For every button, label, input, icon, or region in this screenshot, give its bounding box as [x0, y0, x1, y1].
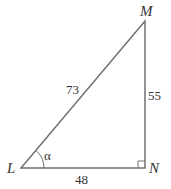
- angle-alpha-arc: [36, 150, 44, 168]
- side-label-ln: 48: [75, 172, 88, 187]
- triangle-diagram: M L N 73 55 48 α: [0, 0, 171, 189]
- vertex-label-l: L: [6, 160, 15, 176]
- side-label-lm: 73: [66, 82, 79, 97]
- side-label-mn: 55: [148, 88, 161, 103]
- angle-label-alpha: α: [44, 148, 51, 163]
- triangle-lmn: [21, 21, 145, 168]
- right-angle-marker: [138, 161, 145, 168]
- vertex-label-n: N: [148, 160, 160, 176]
- vertex-label-m: M: [139, 3, 154, 19]
